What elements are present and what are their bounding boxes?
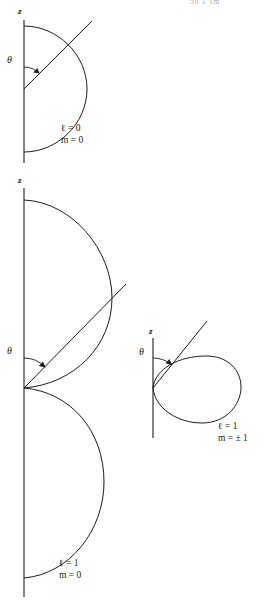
theta-arrowhead: [33, 68, 39, 74]
quantum-numbers-l1-m0: ℓ = 1 m = 0: [59, 557, 81, 581]
quantum-number-l: ℓ = 1: [59, 557, 81, 569]
theta-label: θ: [7, 55, 12, 65]
lower-lobe-curve: [24, 388, 104, 578]
theta-label: θ: [139, 347, 144, 357]
radius-ray: [24, 21, 92, 89]
upper-lobe-curve: [24, 200, 112, 388]
theta-label: θ: [7, 346, 12, 356]
quantum-number-m: m = 0: [59, 569, 81, 581]
z-axis-label: z: [149, 327, 153, 336]
running-head: 50 1 1m: [150, 0, 260, 6]
figure-l1-m0-drawing: [0, 170, 145, 604]
figure-l0-m0-drawing: [0, 0, 140, 175]
quantum-number-m: m = ± 1: [218, 432, 248, 444]
quantum-number-m: m = 0: [61, 134, 83, 146]
figure-l0-m0: z θ ℓ = 0 m = 0: [0, 0, 140, 175]
z-axis-label: z: [18, 176, 22, 185]
figure-l1-mpm1-drawing: [130, 315, 270, 460]
quantum-numbers-l0-m0: ℓ = 0 m = 0: [61, 122, 83, 146]
figure-page: 50 1 1m z θ ℓ = 0 m = 0: [0, 0, 270, 604]
radius-ray: [24, 284, 126, 388]
figure-l1-m0: z θ ℓ = 1 m = 0: [0, 170, 145, 604]
radius-ray: [153, 321, 207, 388]
quantum-number-l: ℓ = 0: [61, 122, 83, 134]
theta-arrowhead: [166, 359, 173, 365]
figure-l1-mpm1: z θ ℓ = 1 m = ± 1: [130, 315, 270, 460]
distribution-curve: [153, 356, 241, 423]
z-axis-label: z: [18, 7, 22, 16]
quantum-numbers-l1-mpm1: ℓ = 1 m = ± 1: [218, 420, 248, 444]
quantum-number-l: ℓ = 1: [218, 420, 248, 432]
